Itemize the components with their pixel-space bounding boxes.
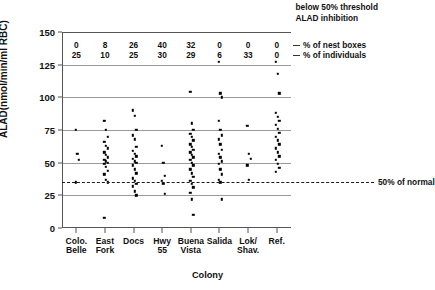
data-point <box>164 193 166 195</box>
x-tick-label-4: BuenaVista <box>178 237 204 256</box>
x-tick-mark <box>219 228 220 233</box>
x-tick-label-line: Ref. <box>269 237 285 246</box>
data-point <box>275 124 277 126</box>
data-point <box>75 129 77 131</box>
data-point <box>106 147 108 149</box>
x-tick-label-line: Belle <box>66 246 87 255</box>
x-tick-label-line: Shav. <box>237 246 259 255</box>
data-point <box>135 155 137 157</box>
x-tick-mark <box>104 228 105 233</box>
x-tick-mark <box>276 228 277 233</box>
y-gridline <box>63 97 291 98</box>
data-point <box>132 185 134 187</box>
y-tick-label: 75 <box>44 125 55 136</box>
x-tick-label-line: Fork <box>96 246 115 255</box>
y-tick-label: 50 <box>44 157 55 168</box>
y-tick-mark <box>58 228 62 229</box>
data-point <box>192 186 194 188</box>
data-point <box>192 156 194 158</box>
y-tick-mark <box>58 130 62 131</box>
data-point <box>192 139 194 141</box>
data-point <box>135 129 137 131</box>
data-point <box>189 192 191 194</box>
x-tick-mark <box>76 228 77 233</box>
data-point <box>103 173 105 175</box>
x-tick-label-1: EastFork <box>96 237 115 256</box>
y-tick-mark <box>58 97 62 98</box>
x-tick-mark <box>190 228 191 233</box>
data-point <box>278 131 280 133</box>
data-point <box>248 178 250 180</box>
data-point <box>218 163 220 165</box>
data-point <box>103 141 105 143</box>
data-point <box>248 152 250 154</box>
data-point <box>275 159 277 161</box>
x-tick-label-0: Colo.Belle <box>66 237 87 256</box>
y-tick-label: 0 <box>50 223 55 234</box>
data-point <box>276 151 278 153</box>
annotation-leader-dash <box>293 45 300 46</box>
data-point <box>133 168 135 170</box>
x-tick-label-line: Salida <box>207 237 232 246</box>
data-point <box>221 96 223 98</box>
data-point <box>192 214 194 216</box>
data-point <box>218 152 220 154</box>
data-point <box>189 91 191 93</box>
annotation-value: 0 <box>74 40 79 50</box>
x-tick-mark <box>248 228 249 233</box>
y-gridline <box>63 195 291 196</box>
data-point <box>219 156 221 158</box>
data-point <box>276 73 278 75</box>
annotation-value: 30 <box>158 50 167 60</box>
annotation-value: 33 <box>243 50 252 60</box>
threshold-note-line2: ALAD inhibition <box>295 13 378 24</box>
data-point <box>276 139 278 141</box>
data-point <box>105 129 107 131</box>
x-tick-mark <box>133 228 134 233</box>
annotation-value: 25 <box>129 50 138 60</box>
data-point <box>278 143 280 145</box>
x-axis-title: Colony <box>62 270 353 280</box>
data-point <box>275 147 277 149</box>
data-point <box>221 148 223 150</box>
data-point <box>218 120 220 122</box>
annotation-value: 0 <box>246 40 251 50</box>
y-tick-mark <box>58 195 62 196</box>
annotation-value: 10 <box>100 50 109 60</box>
data-point <box>106 156 108 158</box>
annotation-leader-dash <box>293 55 300 56</box>
data-point <box>192 148 194 150</box>
data-point <box>192 164 194 166</box>
data-point <box>275 171 277 173</box>
x-tick-label-line: Vista <box>178 246 204 255</box>
data-point <box>135 146 137 148</box>
annotation-value: 0 <box>217 40 222 50</box>
annotation-value: 8 <box>103 40 108 50</box>
data-point <box>219 92 221 94</box>
data-point <box>246 164 248 166</box>
data-point <box>103 120 105 122</box>
data-point <box>221 160 223 162</box>
data-point <box>133 190 135 192</box>
plot-area <box>62 32 291 228</box>
data-point <box>221 134 223 136</box>
data-point <box>76 152 78 154</box>
annotation-value: 29 <box>186 50 195 60</box>
data-point <box>162 161 164 163</box>
data-point <box>192 176 194 178</box>
annotation-value: 0 <box>274 40 279 50</box>
data-point <box>106 135 108 137</box>
data-point <box>278 167 280 169</box>
data-point <box>278 120 280 122</box>
data-point <box>249 158 251 160</box>
y-tick-mark <box>58 32 62 33</box>
data-point <box>78 159 80 161</box>
annotation-value: 25 <box>72 50 81 60</box>
data-point <box>132 109 134 111</box>
x-tick-label-5: Salida <box>207 237 232 246</box>
y-gridline <box>63 163 291 164</box>
x-tick-label-7: Ref. <box>269 237 285 246</box>
data-point <box>219 143 221 145</box>
data-point <box>278 92 280 94</box>
